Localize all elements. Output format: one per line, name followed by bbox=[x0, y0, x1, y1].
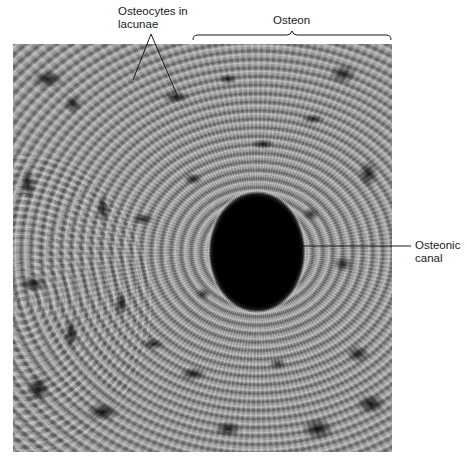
osteocytes-label-line1: Osteocytes in bbox=[118, 5, 188, 18]
bone-histology-figure: Osteocytes in lacunae Osteon Osteonic ca… bbox=[0, 0, 467, 459]
canal-label-line2: canal bbox=[415, 252, 460, 265]
osteon-label: Osteon bbox=[273, 14, 310, 27]
canal-label-line1: Osteonic bbox=[415, 239, 460, 252]
osteocytes-label: Osteocytes in lacunae bbox=[118, 5, 188, 31]
osteonic-canal-label: Osteonic canal bbox=[415, 239, 460, 265]
osteon-micrograph-image bbox=[13, 44, 392, 452]
osteon-bracket bbox=[193, 31, 391, 40]
osteonic-canal bbox=[207, 189, 307, 315]
osteocytes-label-line2: lacunae bbox=[118, 18, 188, 31]
